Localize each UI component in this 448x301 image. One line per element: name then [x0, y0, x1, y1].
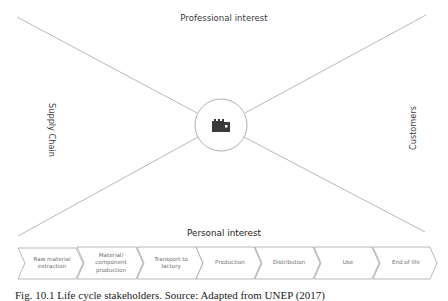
stage-label-end-of-life: End of life	[380, 247, 432, 279]
stage-label-component-production: Material/ component production	[85, 247, 137, 279]
line-top-right	[245, 15, 426, 113]
supply-chain-label: Supply Chain	[47, 103, 57, 157]
stage-label-distribution: Distribution	[262, 247, 316, 279]
professional-interest-label: Professional interest	[0, 13, 448, 23]
stage-label-use: Use	[321, 247, 375, 279]
stage-label-transport: Transport to factory	[146, 247, 196, 279]
stage-label-raw-material-extraction: Raw material extraction	[25, 247, 79, 279]
figure-caption: Fig. 10.1 Life cycle stakeholders. Sourc…	[15, 289, 325, 301]
personal-interest-label: Personal interest	[0, 228, 448, 238]
customers-label: Customers	[408, 106, 418, 150]
factory-icon	[212, 118, 230, 132]
line-bottom-left	[18, 137, 198, 236]
line-bottom-right	[244, 137, 425, 232]
stage-label-production: Production	[203, 247, 257, 279]
line-top-left	[17, 17, 197, 113]
